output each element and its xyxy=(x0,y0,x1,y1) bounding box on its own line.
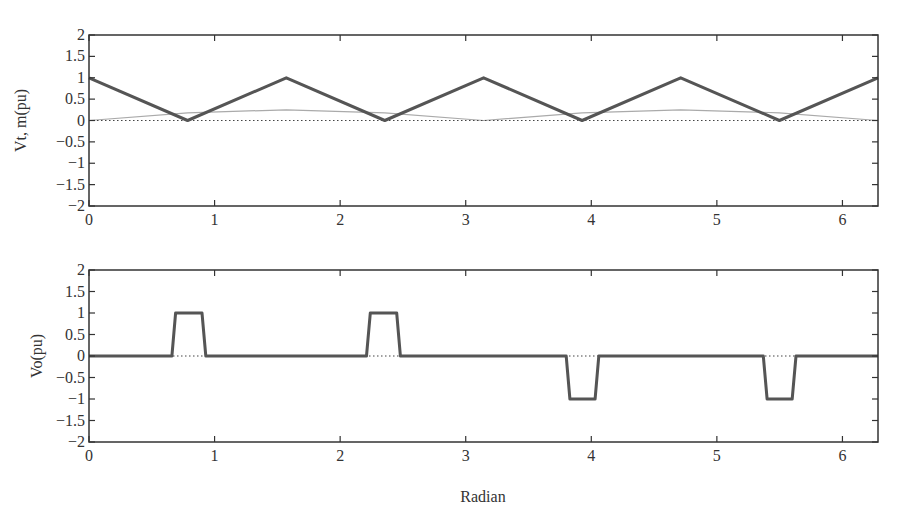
x-tick-label: 6 xyxy=(838,211,846,228)
x-tick-label: 2 xyxy=(336,447,344,464)
y-tick-label: 0.5 xyxy=(65,90,85,107)
y-tick-label: −1.5 xyxy=(56,412,85,429)
y-tick-label: −0.5 xyxy=(56,369,85,386)
x-tick-label: 2 xyxy=(336,211,344,228)
y-tick-label: 1.5 xyxy=(65,283,85,300)
figure: 0123456−2−1.5−1−0.500.511.52Vt, m(pu) 01… xyxy=(0,0,898,514)
x-tick-label: 5 xyxy=(713,211,721,228)
y-axis-label: Vt, m(pu) xyxy=(12,89,30,152)
x-tick-label: 1 xyxy=(211,211,219,228)
y-tick-label: −1 xyxy=(68,154,85,171)
y-tick-label: 0 xyxy=(77,112,85,129)
x-tick-label: 3 xyxy=(462,447,470,464)
y-tick-label: 2 xyxy=(77,261,85,278)
y-tick-label: −2 xyxy=(68,197,85,214)
series-vo-line xyxy=(89,313,878,399)
y-tick-label: 1 xyxy=(77,69,85,86)
top-plot: 0123456−2−1.5−1−0.500.511.52Vt, m(pu) xyxy=(12,26,878,228)
x-axis-label: Radian xyxy=(460,488,505,505)
y-tick-label: 0.5 xyxy=(65,326,85,343)
x-tick-label: 3 xyxy=(462,211,470,228)
series-vt-line xyxy=(89,78,878,121)
y-tick-label: −1.5 xyxy=(56,176,85,193)
x-tick-label: 6 xyxy=(838,447,846,464)
x-tick-label: 0 xyxy=(85,211,93,228)
bottom-plot: 0123456−2−1.5−1−0.500.511.52Vo(pu) xyxy=(28,261,878,464)
x-tick-label: 1 xyxy=(211,447,219,464)
y-tick-label: −0.5 xyxy=(56,133,85,150)
x-tick-label: 4 xyxy=(587,447,595,464)
y-axis-label: Vo(pu) xyxy=(28,334,46,378)
x-tick-label: 0 xyxy=(85,447,93,464)
y-tick-label: 1 xyxy=(77,304,85,321)
y-tick-label: 0 xyxy=(77,347,85,364)
x-tick-label: 4 xyxy=(587,211,595,228)
y-tick-label: −2 xyxy=(68,433,85,450)
x-tick-label: 5 xyxy=(713,447,721,464)
y-tick-label: 2 xyxy=(77,26,85,43)
y-tick-label: 1.5 xyxy=(65,47,85,64)
y-tick-label: −1 xyxy=(68,390,85,407)
